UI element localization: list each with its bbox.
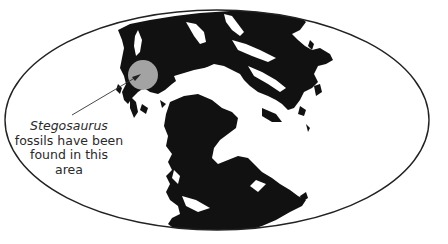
- landmasses: [116, 11, 333, 234]
- island: [306, 124, 310, 132]
- gondwana-landmass: [164, 94, 306, 234]
- island: [314, 84, 322, 96]
- island: [298, 106, 306, 116]
- annotation-line-2: found in this: [10, 148, 128, 163]
- fossil-annotation-label: Stegosaurus fossils have been found in t…: [10, 119, 128, 177]
- island: [160, 100, 166, 108]
- paleo-world-map: Stegosaurus fossils have been found in t…: [0, 0, 448, 244]
- island: [140, 104, 148, 114]
- annotation-line-1: fossils have been: [10, 134, 128, 149]
- species-name: Stegosaurus: [10, 119, 128, 134]
- island: [130, 96, 138, 118]
- laurasia-landmass: [118, 11, 333, 110]
- fossil-area-highlight: [128, 60, 158, 90]
- island: [262, 108, 282, 122]
- annotation-line-3: area: [10, 163, 128, 178]
